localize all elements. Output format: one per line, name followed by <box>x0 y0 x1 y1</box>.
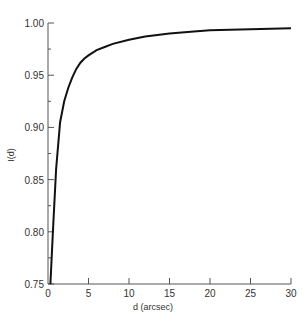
data-line <box>50 28 291 284</box>
y-tick-label: 0.95 <box>25 70 45 81</box>
ticks: 0510152025300.750.800.850.900.951.00 <box>25 18 297 299</box>
x-tick-label: 30 <box>285 288 297 299</box>
y-tick-label: 0.80 <box>25 227 45 238</box>
y-tick-label: 1.00 <box>25 18 45 29</box>
y-axis-label: I(d) <box>6 148 16 162</box>
x-tick-label: 5 <box>86 288 92 299</box>
x-axis-label: d (arcsec) <box>133 302 173 312</box>
x-tick-label: 15 <box>164 288 176 299</box>
x-tick-label: 25 <box>245 288 257 299</box>
chart: 0510152025300.750.800.850.900.951.00 d (… <box>0 0 308 323</box>
y-tick-label: 0.75 <box>25 279 45 290</box>
axes <box>48 23 291 284</box>
y-tick-label: 0.85 <box>25 175 45 186</box>
x-tick-label: 20 <box>204 288 216 299</box>
x-tick-label: 10 <box>123 288 135 299</box>
y-tick-label: 0.90 <box>25 122 45 133</box>
x-tick-label: 0 <box>45 288 51 299</box>
